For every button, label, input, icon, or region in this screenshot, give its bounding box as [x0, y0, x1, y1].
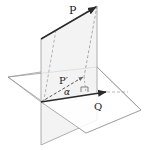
label-q: Q [94, 101, 102, 112]
label-p-prime: P′ [59, 75, 69, 86]
label-alpha: α [64, 87, 70, 97]
diagram-svg: P P′ α Q [0, 0, 152, 150]
label-p: P [69, 4, 77, 17]
vector-projection-diagram: P P′ α Q [0, 0, 152, 150]
